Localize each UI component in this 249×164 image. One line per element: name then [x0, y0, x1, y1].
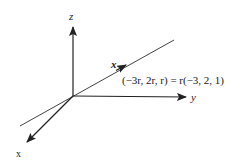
y-axis-label: y [190, 91, 196, 103]
y-axis [73, 96, 186, 97]
z-axis-label: z [68, 10, 74, 22]
equation-label: (−3r, 2r, r) = r(−3, 2, 1) [122, 74, 224, 87]
x-axis-label: x [16, 148, 21, 159]
x-axis [27, 96, 73, 142]
point-label: x [110, 58, 117, 70]
diagram-canvas: z y x x (−3r, 2r, r) = r(−3, 2, 1) [0, 0, 249, 164]
